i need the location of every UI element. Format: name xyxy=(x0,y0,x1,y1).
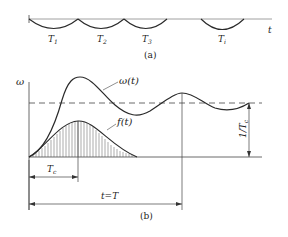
label-t1: T1 xyxy=(48,34,58,45)
caption-b: (b) xyxy=(140,211,153,221)
label-f-t: f(t) xyxy=(116,116,133,127)
label-t-equals-T: t=T xyxy=(101,191,119,201)
label-omega-t: ω(t) xyxy=(119,75,139,86)
omega-leader xyxy=(103,82,118,90)
caption-a: (a) xyxy=(144,50,156,60)
arc-t2 xyxy=(78,19,124,29)
label-t2: T2 xyxy=(97,34,107,45)
label-ti: Ti xyxy=(218,34,226,45)
axis-label-t: t xyxy=(268,25,272,35)
figure-b: ω ω(t) f(t) Tc t=T 1/Tc (b) xyxy=(16,75,262,221)
curve-omega xyxy=(29,77,249,157)
label-one-over-tc: 1/Tc xyxy=(238,119,249,138)
y-axis-label-omega: ω xyxy=(16,76,24,87)
label-tc: Tc xyxy=(47,164,57,175)
diagram-canvas: t T1 T2 T3 Ti (a) xyxy=(0,0,288,237)
figure-a: t T1 T2 T3 Ti (a) xyxy=(29,15,272,60)
label-t3: T3 xyxy=(142,34,152,45)
arc-t1 xyxy=(29,19,78,29)
arc-t3 xyxy=(124,19,167,29)
arc-ti xyxy=(201,19,244,30)
f-leader xyxy=(107,124,116,130)
